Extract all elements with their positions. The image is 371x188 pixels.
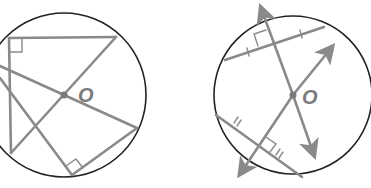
left-chord-left	[9, 38, 11, 153]
geometry-diagrams: O O	[0, 0, 371, 188]
right-angle-mark-bottom	[266, 137, 276, 152]
right-angle-mark-top	[9, 38, 22, 52]
right-angle-mark-top	[254, 30, 266, 46]
left-figure: O	[0, 13, 146, 177]
left-center-label: O	[78, 84, 94, 106]
right-center-label: O	[302, 86, 318, 108]
right-center-point	[290, 92, 297, 99]
left-center-point	[61, 92, 68, 99]
perpendicular-bisector-1-up	[261, 8, 293, 95]
left-chord-top	[9, 37, 116, 38]
perpendicular-bisector-2-down	[240, 95, 293, 174]
left-chord-right	[72, 128, 137, 175]
left-diameter-2	[0, 66, 137, 128]
right-angle-mark-bottom	[66, 159, 83, 168]
right-figure: O	[214, 8, 371, 177]
